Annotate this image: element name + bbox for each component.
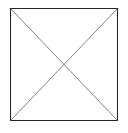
image-placeholder-box: [10, 8, 118, 121]
image-placeholder-canvas: [0, 0, 128, 133]
broken-image-x-icon: [11, 9, 117, 120]
